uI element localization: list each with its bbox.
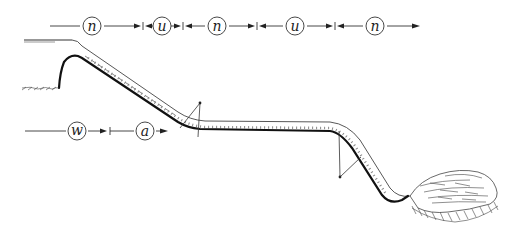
shelf-surface (24, 40, 82, 46)
svg-text:n: n (370, 18, 379, 34)
arrow-left-icon (145, 24, 152, 29)
zone-label-n-1: n (83, 17, 101, 35)
zone-label-a: a (136, 122, 154, 140)
top-zone-axis: n u n u n (50, 17, 420, 35)
arrow-right-icon (174, 24, 181, 29)
arrow-right-icon (134, 24, 141, 29)
zone-label-u-2: u (286, 17, 304, 35)
pointer-marker-1 (180, 102, 201, 137)
svg-text:u: u (290, 18, 299, 34)
flow-layer (82, 46, 425, 196)
svg-text:w: w (71, 122, 83, 138)
zone-label-n-3: n (366, 17, 384, 35)
depositional-lobe (410, 170, 498, 222)
arrow-left-icon (337, 24, 344, 29)
arrow-right-icon (100, 129, 107, 134)
bottom-zone-axis: w a (25, 122, 168, 140)
arrow-right-icon (160, 129, 168, 134)
svg-text:u: u (157, 18, 166, 34)
arrow-right-icon (248, 24, 255, 29)
zone-label-u-1: u (153, 17, 171, 35)
svg-text:n: n (87, 18, 96, 34)
svg-text:a: a (141, 123, 149, 139)
arrow-left-icon (185, 24, 192, 29)
zone-label-w: w (68, 122, 86, 140)
svg-text:n: n (212, 18, 221, 34)
zone-label-n-2: n (208, 17, 226, 35)
arrow-right-icon (412, 24, 420, 29)
arrow-right-icon (326, 24, 333, 29)
arrow-left-icon (259, 24, 266, 29)
turbidity-current-channel-diagram: n u n u n w a (0, 0, 516, 234)
